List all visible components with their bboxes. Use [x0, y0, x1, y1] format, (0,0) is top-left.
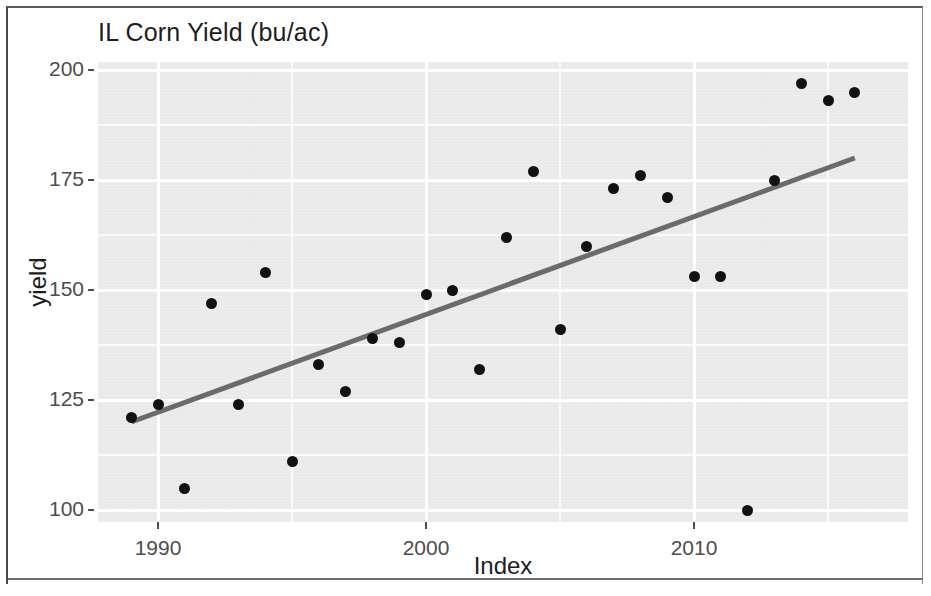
scatter-point: [126, 412, 137, 423]
trendline: [98, 62, 908, 522]
scatter-point: [260, 267, 271, 278]
y-axis-tick-mark: [88, 289, 94, 291]
scatter-point: [635, 170, 646, 181]
x-axis-tick-mark: [693, 522, 695, 529]
y-axis-tick-mark: [88, 399, 94, 401]
scatter-point: [474, 364, 485, 375]
scatter-point: [796, 78, 807, 89]
x-axis-label: Index: [98, 552, 908, 580]
y-axis-tick-label: 125: [24, 387, 84, 411]
scatter-point: [447, 285, 458, 296]
scatter-point: [581, 241, 592, 252]
chart-title: IL Corn Yield (bu/ac): [98, 18, 329, 47]
x-axis-tick-mark: [425, 522, 427, 529]
scatter-point: [206, 298, 217, 309]
scatter-point: [849, 87, 860, 98]
scatter-point: [742, 505, 753, 516]
scatter-point: [421, 289, 432, 300]
y-axis-tick-mark: [88, 69, 94, 71]
y-axis-tick-label: 175: [24, 167, 84, 191]
scatter-point: [367, 333, 378, 344]
y-axis-label: yield: [24, 222, 52, 342]
scatter-point: [689, 271, 700, 282]
scatter-point: [340, 386, 351, 397]
scatter-point: [769, 175, 780, 186]
x-axis-tick-mark: [157, 522, 159, 529]
y-axis-tick-mark: [88, 179, 94, 181]
scatter-point: [233, 399, 244, 410]
scatter-point: [394, 337, 405, 348]
scatter-point: [528, 166, 539, 177]
scanned-page: IL Corn Yield (bu/ac) 100125150175200 19…: [0, 0, 931, 596]
y-axis-tick-label: 200: [24, 57, 84, 81]
scatter-point: [179, 483, 190, 494]
scatter-point: [555, 324, 566, 335]
y-axis-tick-mark: [88, 509, 94, 511]
scatter-point: [501, 232, 512, 243]
y-axis-tick-label: 100: [24, 497, 84, 521]
scatter-point: [153, 399, 164, 410]
plot-panel: [98, 62, 908, 522]
scatter-point: [662, 192, 673, 203]
scatter-point: [823, 95, 834, 106]
scatter-point: [287, 456, 298, 467]
chart-figure: IL Corn Yield (bu/ac) 100125150175200 19…: [0, 0, 931, 596]
